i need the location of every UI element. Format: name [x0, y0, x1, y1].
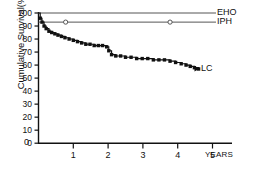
data-point-marker	[141, 57, 144, 60]
data-point-marker	[174, 61, 177, 64]
y-tick-label: 40	[4, 86, 32, 96]
y-tick-label: 30	[4, 99, 32, 109]
data-point-marker	[76, 40, 79, 43]
y-tick-label: 90	[4, 21, 32, 31]
data-point-marker	[80, 41, 83, 44]
survival-chart-figure: Cumulative Survival(%) 01020304050607080…	[0, 0, 253, 169]
series-line-lc	[39, 13, 199, 69]
data-point-marker	[40, 20, 43, 23]
data-point-marker	[168, 59, 171, 62]
data-point-marker	[56, 33, 59, 36]
x-axis-ticks	[73, 143, 212, 148]
series-label-iph: IPH	[217, 16, 232, 26]
data-point-marker	[67, 37, 70, 40]
data-point-marker	[97, 44, 100, 47]
y-tick-label: 60	[4, 60, 32, 70]
data-point-marker	[88, 43, 91, 46]
x-tick-label: 1	[63, 150, 83, 160]
data-point-marker	[84, 43, 87, 46]
y-tick-label: 20	[4, 112, 32, 122]
series-label-lc: LC	[201, 63, 213, 73]
y-tick-label: 100	[4, 8, 32, 18]
data-point-marker	[119, 54, 122, 57]
data-point-marker	[114, 54, 117, 57]
data-point-marker	[163, 58, 166, 61]
data-point-marker	[60, 35, 63, 38]
data-point-marker	[39, 17, 42, 20]
data-point-marker	[157, 58, 160, 61]
x-tick-label: 3	[133, 150, 153, 160]
data-point-marker	[184, 63, 187, 66]
axis-lines	[38, 12, 232, 144]
data-point-marker	[63, 36, 66, 39]
x-tick-label: 4	[168, 150, 188, 160]
censor-marker	[64, 20, 68, 24]
data-point-marker	[135, 57, 138, 60]
chart-plot-area	[0, 0, 253, 169]
data-point-marker	[107, 49, 110, 52]
chart-series-layer	[39, 13, 210, 71]
x-axis-unit-label: YEARS	[205, 150, 233, 159]
data-point-marker	[92, 44, 95, 47]
y-tick-label: 80	[4, 34, 32, 44]
data-point-marker	[179, 62, 182, 65]
data-point-marker	[129, 56, 132, 59]
data-point-marker	[146, 57, 149, 60]
y-tick-label: 10	[4, 125, 32, 135]
series-iph	[39, 20, 210, 24]
data-point-marker	[189, 65, 192, 68]
data-point-marker	[72, 39, 75, 42]
data-point-marker	[50, 31, 53, 34]
data-point-marker	[101, 44, 104, 47]
data-point-marker	[53, 32, 56, 35]
x-tick-label: 2	[98, 150, 118, 160]
data-point-marker	[105, 45, 108, 48]
x-tick-label: 0	[17, 137, 37, 147]
data-point-marker	[124, 56, 127, 59]
data-point-marker	[152, 58, 155, 61]
y-tick-label: 70	[4, 47, 32, 57]
data-point-marker	[110, 53, 113, 56]
y-tick-label: 50	[4, 73, 32, 83]
censor-marker	[168, 20, 172, 24]
